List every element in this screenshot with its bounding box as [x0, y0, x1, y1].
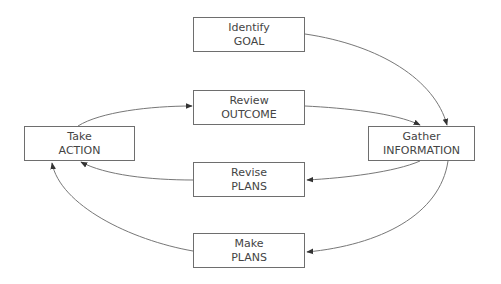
node-label-line2: PLANS — [231, 180, 267, 194]
node-label-line2: INFORMATION — [383, 144, 460, 158]
node-review-outcome: Review OUTCOME — [193, 90, 305, 125]
node-label-line2: ACTION — [59, 144, 101, 158]
node-label-line2: GOAL — [234, 35, 265, 49]
node-revise-plans: Revise PLANS — [193, 162, 305, 197]
arrow-revise-to-take — [81, 162, 193, 180]
node-make-plans: Make PLANS — [193, 233, 305, 268]
arrow-make-to-take — [52, 163, 193, 251]
node-label-line2: OUTCOME — [221, 108, 277, 122]
node-label-line1: Review — [229, 94, 268, 108]
arrow-gather-to-make — [307, 161, 448, 252]
arrow-gather-to-revise — [307, 161, 420, 180]
arrow-take-to-review — [78, 106, 192, 126]
node-take-action: Take ACTION — [24, 126, 135, 161]
node-label-line1: Identify — [228, 21, 270, 35]
node-label-line1: Revise — [231, 166, 267, 180]
diagram-canvas: Identify GOAL Review OUTCOME Take ACTION… — [0, 0, 501, 284]
arrow-review-to-gather — [305, 106, 420, 125]
node-gather-information: Gather INFORMATION — [368, 126, 475, 161]
node-identify-goal: Identify GOAL — [193, 17, 305, 52]
node-label-line1: Take — [67, 130, 91, 144]
node-label-line2: PLANS — [231, 251, 267, 265]
node-label-line1: Make — [235, 237, 264, 251]
arrow-identify-to-gather — [305, 34, 447, 125]
node-label-line1: Gather — [403, 130, 441, 144]
